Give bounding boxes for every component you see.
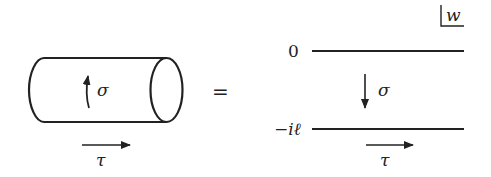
bottom-boundary-label: −iℓ <box>274 119 301 139</box>
diagram-canvas: σ τ = w 0 σ −iℓ τ <box>0 0 491 177</box>
cylinder-sigma-label: σ <box>97 80 109 100</box>
equals-sign: = <box>212 80 229 104</box>
sigma-up-arrow-icon <box>87 76 89 108</box>
w-plane-marker: w <box>441 5 464 26</box>
w-plane-label: w <box>446 5 461 25</box>
strip-tau-label: τ <box>380 150 390 170</box>
top-boundary-label: 0 <box>288 41 299 61</box>
strip-sigma-label: σ <box>378 80 390 100</box>
cylinder-tau-label: τ <box>96 150 106 170</box>
cylinder-end-cap <box>151 58 183 122</box>
